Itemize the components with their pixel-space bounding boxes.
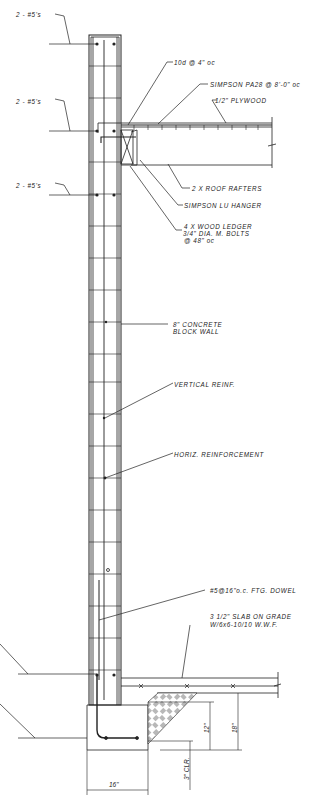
block-wall <box>89 35 121 705</box>
horiz-reinf-label: HORIZ. REINFORCEMENT <box>174 451 264 458</box>
ledger-label-2: 3/4" DIA. M. BOLTS <box>183 230 249 237</box>
rebar-top-label: 2 - #5's <box>16 11 41 18</box>
rafters-label: 2 X ROOF RAFTERS <box>192 185 262 192</box>
footing-total-dim: 18" <box>231 723 238 733</box>
plywood-label: 1/2" PLYWOOD <box>215 97 267 104</box>
wall-section-drawing <box>0 0 318 807</box>
ledger-label-1: 4 X WOOD LEDGER <box>184 223 252 230</box>
strap-label: SIMPSON PA28 @ 8'-0" oc <box>210 81 300 88</box>
nailing-label: 10d @ 4" oc <box>174 59 215 66</box>
wall-label-2: BLOCK WALL <box>173 328 219 335</box>
ledger-label-3: @ 48" oc <box>184 237 215 244</box>
slab-label-2: W/6x6-10/10 W.W.F. <box>210 621 278 628</box>
hanger-label: SIMPSON LU HANGER <box>184 202 262 209</box>
slab-on-grade <box>121 672 281 698</box>
vertical-reinf-label: VERTICAL REINF. <box>174 381 235 388</box>
slab-label-1: 3 1/2" SLAB ON GRADE <box>210 613 291 620</box>
footing-depth-dim: 12" <box>203 723 210 733</box>
roof-framing <box>98 117 276 168</box>
clearance-dim: 3" CLR. <box>183 757 190 780</box>
footing <box>87 676 197 770</box>
rebar-bond-beam-label: 2 - #5's <box>16 98 41 105</box>
footing-width-dim: 16" <box>109 781 119 788</box>
wall-label-1: 8" CONCRETE <box>173 321 222 328</box>
dowel-label: #5@16"o.c. FTG. DOWEL <box>210 587 296 594</box>
rebar-lower-beam-label: 2 - #5's <box>16 182 41 189</box>
